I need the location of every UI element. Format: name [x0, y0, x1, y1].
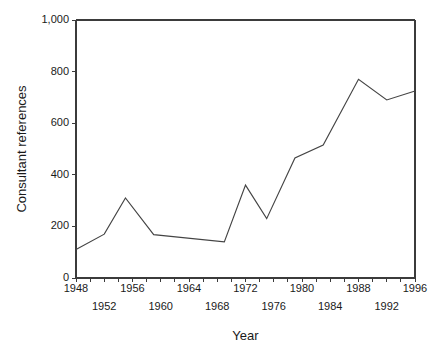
- x-tick-label: 1984: [318, 300, 342, 312]
- chart-axes: [76, 20, 415, 278]
- chart-container: 02004006008001,000 194819521956196019641…: [0, 0, 442, 358]
- x-tick-label: 1988: [346, 282, 370, 294]
- line-chart: 02004006008001,000 194819521956196019641…: [0, 0, 442, 358]
- x-tick-label: 1996: [403, 282, 427, 294]
- x-axis-title: Year: [232, 328, 259, 343]
- x-tick-label: 1980: [290, 282, 314, 294]
- y-tick-label: 200: [51, 219, 69, 231]
- x-tick-label: 1960: [149, 300, 173, 312]
- x-tick-label: 1952: [92, 300, 116, 312]
- y-axis-ticks: [72, 20, 76, 278]
- y-axis-title: Consultant references: [14, 85, 29, 213]
- x-tick-label: 1992: [375, 300, 399, 312]
- x-tick-label: 1968: [205, 300, 229, 312]
- x-tick-label: 1964: [177, 282, 201, 294]
- x-tick-label: 1972: [233, 282, 257, 294]
- y-tick-label: 600: [51, 116, 69, 128]
- data-series-group: [76, 79, 415, 249]
- y-tick-label: 400: [51, 168, 69, 180]
- y-tick-label: 800: [51, 65, 69, 77]
- x-tick-label: 1976: [262, 300, 286, 312]
- data-line-series: [76, 79, 415, 249]
- x-axis-tick-labels: 1948195219561960196419681972197619801984…: [64, 282, 427, 312]
- y-axis-tick-labels: 02004006008001,000: [41, 13, 69, 283]
- x-tick-label: 1948: [64, 282, 88, 294]
- x-tick-label: 1956: [120, 282, 144, 294]
- axis-spines: [76, 20, 415, 278]
- y-tick-label: 1,000: [41, 13, 69, 25]
